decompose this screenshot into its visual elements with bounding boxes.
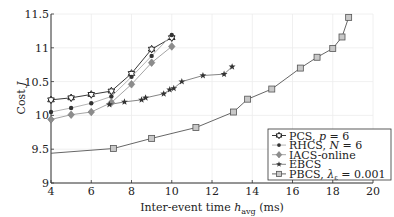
y-tick-label: 9.5 bbox=[32, 143, 50, 156]
y-tick-label: 10.5 bbox=[25, 76, 50, 89]
y-tick-label: 11.5 bbox=[25, 8, 50, 21]
y-tick-label: 11 bbox=[35, 42, 49, 55]
y-axis-label: Cost J bbox=[15, 81, 28, 115]
diamond-marker-icon bbox=[169, 43, 175, 51]
hexagram-marker-icon bbox=[68, 94, 75, 102]
x-tick-label: 8 bbox=[128, 185, 135, 198]
hexagram-marker-icon bbox=[88, 91, 95, 99]
x-tick-label: 6 bbox=[88, 185, 95, 198]
dot-marker-icon bbox=[149, 54, 153, 58]
square-marker-icon bbox=[193, 125, 199, 131]
square-marker-icon bbox=[231, 109, 237, 115]
square-marker-icon bbox=[245, 96, 251, 102]
y-tick-label: 9 bbox=[42, 177, 49, 190]
x-tick-label: 10 bbox=[165, 185, 179, 198]
dot-marker-icon bbox=[89, 101, 93, 105]
diamond-marker-icon bbox=[68, 111, 74, 119]
square-marker-icon bbox=[269, 86, 275, 92]
dot-marker-icon bbox=[109, 94, 113, 98]
dot-marker-icon bbox=[69, 106, 73, 110]
dot-marker-icon bbox=[277, 143, 281, 147]
dot-marker-icon bbox=[129, 75, 133, 79]
square-marker-icon bbox=[346, 14, 352, 20]
square-marker-icon bbox=[297, 65, 303, 71]
x-axis-label: Inter-event time havg (ms) bbox=[140, 201, 284, 216]
series-pcs bbox=[48, 34, 175, 104]
series-ebcs bbox=[106, 63, 236, 107]
star-marker-icon bbox=[200, 72, 207, 79]
x-tick-label: 20 bbox=[366, 185, 380, 198]
dot-marker-icon bbox=[49, 110, 53, 114]
square-marker-icon bbox=[330, 45, 336, 51]
y-tick-label: 10 bbox=[35, 109, 49, 122]
diamond-marker-icon bbox=[88, 108, 94, 116]
axis-labels: Inter-event time havg (ms) Cost J bbox=[15, 81, 284, 216]
square-marker-icon bbox=[339, 34, 345, 40]
star-marker-icon bbox=[121, 98, 128, 105]
dot-marker-icon bbox=[170, 33, 174, 37]
x-tick-label: 12 bbox=[205, 185, 219, 198]
square-marker-icon bbox=[314, 54, 320, 60]
square-marker-icon bbox=[276, 171, 281, 176]
series-iacs-online bbox=[48, 43, 175, 124]
legend: PCS, p = 6RHCS, N = 6IACS-onlineEBCSPBCS… bbox=[268, 129, 391, 182]
series-line bbox=[109, 67, 232, 105]
legend-item: PBCS, λε = 0.001 bbox=[272, 168, 386, 182]
square-marker-icon bbox=[149, 135, 155, 141]
x-tick-label: 14 bbox=[245, 185, 259, 198]
star-marker-icon bbox=[160, 90, 167, 97]
x-tick-label: 16 bbox=[286, 185, 300, 198]
legend-label: PBCS, λε = 0.001 bbox=[289, 168, 386, 182]
x-tick-label: 18 bbox=[326, 185, 340, 198]
line-chart: 46810121416182099.51010.51111.5 PCS, p =… bbox=[0, 0, 394, 217]
square-marker-icon bbox=[110, 146, 116, 152]
hexagram-marker-icon bbox=[48, 96, 55, 104]
